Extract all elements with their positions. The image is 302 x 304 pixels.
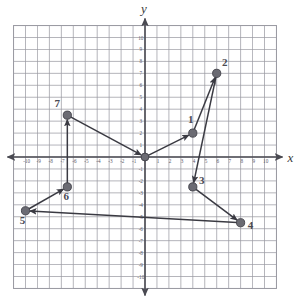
x-tick-label: -2 [120, 158, 125, 164]
data-point-label: 2 [222, 56, 228, 68]
y-tick-label: 7 [140, 70, 143, 76]
x-tick-label: -6 [72, 158, 77, 164]
data-point-label: 7 [55, 97, 61, 109]
data-point [189, 183, 197, 191]
plot-svg: -10-9-8-7-6-5-4-3-2-11234567891010987654… [0, 0, 302, 304]
x-tick-label: -5 [84, 158, 89, 164]
data-point [237, 219, 245, 227]
y-tick-label: 5 [140, 94, 143, 100]
y-tick-label: -10 [137, 274, 144, 280]
y-tick-label: 6 [140, 82, 143, 88]
data-point-label: 5 [20, 214, 26, 226]
y-tick-label: -9 [139, 262, 144, 268]
y-tick-label: 2 [140, 130, 143, 136]
coordinate-plane-figure: -10-9-8-7-6-5-4-3-2-11234567891010987654… [0, 0, 302, 304]
y-tick-label: -4 [139, 202, 144, 208]
x-tick-label: 8 [241, 158, 244, 164]
y-tick-label: -7 [139, 238, 144, 244]
y-tick-label: -1 [139, 166, 144, 172]
x-tick-label: 7 [229, 158, 232, 164]
x-tick-label: 4 [193, 158, 196, 164]
data-point-label: 3 [199, 174, 205, 186]
data-point [213, 69, 221, 77]
x-tick-label: -7 [60, 158, 65, 164]
y-tick-label: 3 [140, 118, 143, 124]
data-point-label: 6 [64, 190, 70, 202]
y-tick-label: 1 [140, 142, 143, 148]
data-point [63, 111, 71, 119]
x-tick-label: 9 [252, 158, 255, 164]
data-point-label: 4 [248, 219, 254, 231]
x-tick-label: 10 [263, 158, 269, 164]
x-tick-label: -10 [23, 158, 30, 164]
x-tick-label: 1 [157, 158, 160, 164]
x-tick-label: -1 [132, 158, 137, 164]
x-tick-label: 2 [169, 158, 172, 164]
data-point-origin [141, 153, 149, 161]
x-tick-label: 5 [205, 158, 208, 164]
x-tick-label: -3 [108, 158, 113, 164]
y-axis-label: y [139, 1, 147, 16]
data-point-label: 1 [188, 113, 194, 125]
x-tick-label: -4 [96, 158, 101, 164]
y-tick-label: 10 [138, 35, 144, 41]
y-tick-label: -2 [139, 178, 144, 184]
x-axis-label: x [287, 150, 294, 165]
x-tick-label: -9 [36, 158, 41, 164]
x-tick-label: 3 [181, 158, 184, 164]
y-tick-label: -6 [139, 226, 144, 232]
y-tick-label: 9 [140, 46, 143, 52]
x-tick-label: 6 [217, 158, 220, 164]
x-tick-label: -8 [48, 158, 53, 164]
y-tick-label: -8 [139, 250, 144, 256]
y-tick-label: -3 [139, 190, 144, 196]
y-tick-label: 4 [140, 106, 143, 112]
y-tick-label: 8 [140, 58, 143, 64]
data-point [189, 129, 197, 137]
